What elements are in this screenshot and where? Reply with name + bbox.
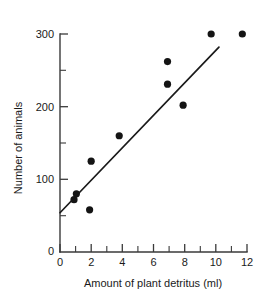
y-tick-label-0: 0 [48, 245, 54, 257]
data-point [73, 190, 80, 197]
data-point [180, 102, 187, 109]
y-axis-ticks [60, 34, 68, 216]
x-tick-label-0: 0 [57, 256, 63, 268]
x-tick-label-2: 2 [88, 256, 94, 268]
y-tick-label-100: 100 [36, 173, 54, 185]
x-axis-ticks [60, 244, 247, 252]
x-axis-tick-labels: 0 2 4 6 8 10 12 [57, 256, 253, 268]
data-point [164, 81, 171, 88]
data-point [116, 132, 123, 139]
x-axis: 0 2 4 6 8 10 12 Amount of plant detritus… [57, 244, 253, 289]
trend-line [60, 47, 219, 213]
plot-canvas: 300 200 100 0 Number of animals [0, 0, 270, 305]
x-tick-label-6: 6 [150, 256, 156, 268]
y-axis-tick-labels: 300 200 100 0 [36, 28, 54, 257]
x-axis-title: Amount of plant detritus (ml) [84, 277, 222, 289]
data-point [208, 30, 215, 37]
x-tick-label-12: 12 [241, 256, 253, 268]
scatter-plot-figure: 300 200 100 0 Number of animals [0, 0, 270, 305]
y-axis: 300 200 100 0 Number of animals [12, 28, 68, 257]
x-tick-label-10: 10 [210, 256, 222, 268]
y-axis-title: Number of animals [12, 101, 24, 194]
x-tick-label-4: 4 [119, 256, 125, 268]
data-point [88, 158, 95, 165]
data-point [164, 58, 171, 65]
y-tick-label-200: 200 [36, 101, 54, 113]
data-point [239, 30, 246, 37]
data-point [86, 206, 93, 213]
y-tick-label-300: 300 [36, 28, 54, 40]
x-tick-label-8: 8 [182, 256, 188, 268]
data-points-group [70, 30, 245, 213]
